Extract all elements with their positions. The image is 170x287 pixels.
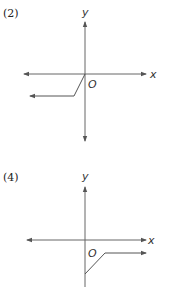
y-axis-label: y <box>81 6 89 19</box>
figure-4: (4) y x O <box>3 170 155 287</box>
x-axis-label: x <box>149 68 157 81</box>
graph-choices: (2) y x O (4) y x O <box>0 0 170 287</box>
origin-label: O <box>88 247 97 260</box>
x-axis-label: x <box>147 234 155 247</box>
function-graph <box>30 74 85 96</box>
figure-label: (2) <box>3 7 19 20</box>
figure-2: (2) y x O <box>3 6 157 141</box>
y-axis-label: y <box>81 170 89 183</box>
origin-label: O <box>88 78 97 91</box>
figure-label: (4) <box>3 171 19 184</box>
